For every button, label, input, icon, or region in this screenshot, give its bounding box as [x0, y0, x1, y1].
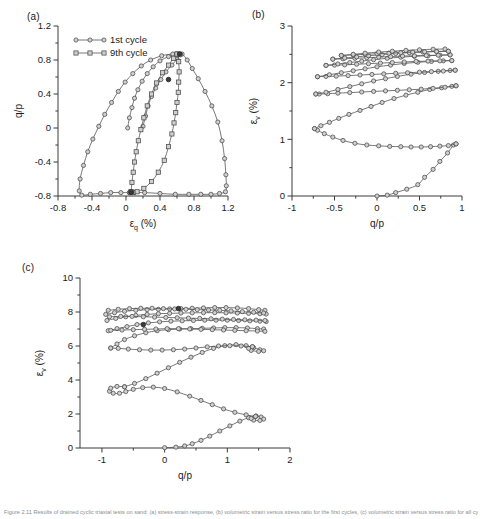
- series-marker: [314, 92, 318, 96]
- series-marker: [346, 73, 350, 77]
- series-marker: [119, 191, 123, 195]
- series-marker: [322, 132, 326, 136]
- series-marker: [351, 69, 355, 73]
- series-curve: [131, 54, 177, 192]
- series-marker: [334, 74, 338, 78]
- series-marker: [86, 150, 90, 154]
- series-marker: [388, 144, 392, 148]
- series-marker: [402, 60, 406, 64]
- series-marker: [158, 320, 162, 324]
- series-marker: [369, 104, 373, 108]
- series-marker: [194, 346, 198, 350]
- series-marker: [224, 173, 228, 177]
- series-marker: [224, 305, 228, 309]
- legend-label: 9th cycle: [110, 47, 148, 58]
- series-marker: [188, 327, 192, 331]
- series-marker: [131, 328, 135, 332]
- series-marker: [112, 311, 116, 315]
- series-marker: [189, 355, 193, 359]
- series-marker: [149, 348, 153, 352]
- series-marker: [172, 121, 176, 125]
- series-marker: [178, 360, 182, 364]
- series-marker: [190, 442, 194, 446]
- x-tick-label: 1: [459, 202, 464, 213]
- y-axis-label: εv (%): [248, 98, 261, 124]
- series-marker: [119, 314, 123, 318]
- series-marker: [257, 308, 261, 312]
- legend-marker: [102, 38, 106, 42]
- series-marker: [423, 50, 427, 54]
- series-marker: [156, 170, 160, 174]
- series-marker: [224, 184, 228, 188]
- series-marker: [151, 65, 155, 69]
- series-marker: [383, 89, 387, 93]
- series-marker: [372, 79, 376, 83]
- series-marker: [122, 309, 126, 313]
- series-marker: [378, 61, 382, 65]
- series-marker: [186, 316, 190, 320]
- series-marker: [137, 348, 141, 352]
- series-marker: [162, 158, 166, 162]
- series-marker: [405, 187, 409, 191]
- panel-b-plot: 0123-1-0.500.51q/pεv (%): [240, 0, 480, 252]
- series-marker: [142, 116, 146, 120]
- series-marker: [210, 104, 214, 108]
- series-marker: [360, 59, 364, 63]
- x-axis-label: εq (%): [130, 218, 157, 232]
- series-marker: [454, 142, 458, 146]
- series-marker: [244, 413, 248, 417]
- series-marker: [382, 72, 386, 76]
- series-marker: [353, 141, 357, 145]
- series-marker: [228, 424, 232, 428]
- series-marker: [216, 120, 220, 124]
- series-marker: [394, 191, 398, 195]
- series-marker: [225, 318, 229, 322]
- series-marker: [139, 128, 143, 132]
- series-marker: [372, 58, 376, 62]
- series-marker: [185, 58, 189, 62]
- panel-c-plot: 0246810-1012q/pεv (%): [18, 252, 318, 504]
- series-marker: [236, 318, 240, 322]
- series-marker: [156, 307, 160, 311]
- series-marker: [171, 52, 175, 56]
- x-tick-label: 2: [287, 454, 292, 465]
- series-marker: [203, 89, 207, 93]
- series-marker: [416, 90, 420, 94]
- series-marker: [363, 67, 367, 71]
- series-marker: [390, 49, 394, 53]
- y-tick-label: 2: [280, 77, 285, 88]
- figure-caption: Figure 2.11 Results of drained cyclic tr…: [4, 509, 478, 516]
- y-tick-label: 10: [62, 272, 73, 283]
- series-marker: [209, 192, 213, 196]
- series-marker: [423, 175, 427, 179]
- series-marker: [409, 145, 413, 149]
- series-marker: [109, 328, 113, 332]
- series-marker: [315, 75, 319, 79]
- series-marker: [130, 180, 134, 184]
- series-marker: [377, 50, 381, 54]
- series-marker: [160, 348, 164, 352]
- x-tick-label: -0.8: [50, 202, 66, 213]
- series-marker: [206, 308, 210, 312]
- series-marker: [213, 311, 217, 315]
- series-marker: [446, 143, 450, 147]
- series-marker: [233, 328, 237, 332]
- series-marker: [132, 160, 136, 164]
- series-marker: [383, 77, 387, 81]
- series-marker: [190, 311, 194, 315]
- legend-label: 1st cycle: [110, 34, 147, 45]
- series-marker: [163, 386, 167, 390]
- series-marker: [116, 307, 120, 311]
- series-marker: [131, 387, 135, 391]
- overlap-marker: [166, 77, 171, 82]
- series-marker: [217, 191, 221, 195]
- series-marker: [120, 328, 124, 332]
- series-marker: [80, 193, 84, 197]
- series-marker: [77, 189, 81, 193]
- series-marker: [372, 89, 376, 93]
- series-marker: [135, 190, 139, 194]
- series-curve: [377, 144, 456, 196]
- series-marker: [417, 70, 421, 74]
- series-marker: [248, 319, 252, 323]
- series-marker: [177, 80, 181, 84]
